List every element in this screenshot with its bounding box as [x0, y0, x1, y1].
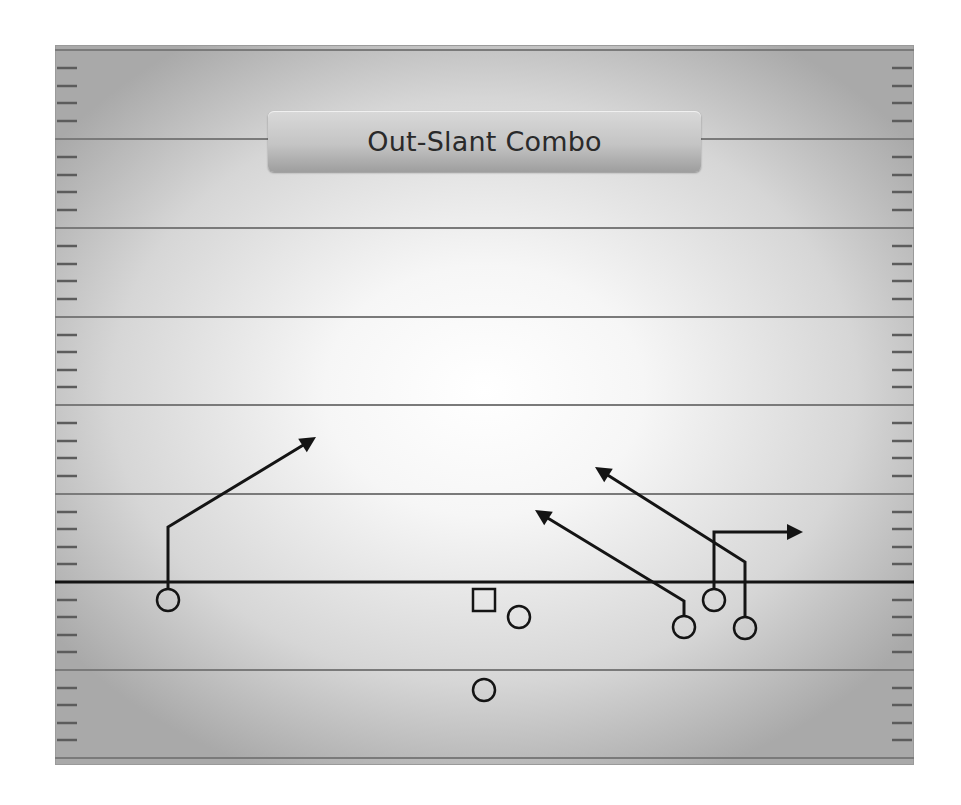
player-wr-right-circle-icon — [734, 617, 756, 639]
arrowhead-icon — [787, 524, 803, 540]
arrowhead-icon — [535, 510, 553, 525]
arrowhead-icon — [298, 437, 316, 452]
player-slot-inside-circle-icon — [673, 616, 695, 638]
player-guard-circle-icon — [508, 606, 530, 628]
route-slot-inside-slant — [535, 510, 684, 616]
player-center-square-icon — [473, 589, 495, 611]
players — [157, 589, 756, 701]
player-wr-left-circle-icon — [157, 589, 179, 611]
arrowhead-icon — [595, 467, 613, 482]
player-back-circle-icon — [473, 679, 495, 701]
route-slot-middle-out — [714, 524, 803, 589]
player-slot-middle-circle-icon — [703, 589, 725, 611]
play-title: Out-Slant Combo — [367, 126, 602, 157]
play-title-banner: Out-Slant Combo — [268, 111, 701, 172]
route-wr-left — [168, 437, 316, 589]
